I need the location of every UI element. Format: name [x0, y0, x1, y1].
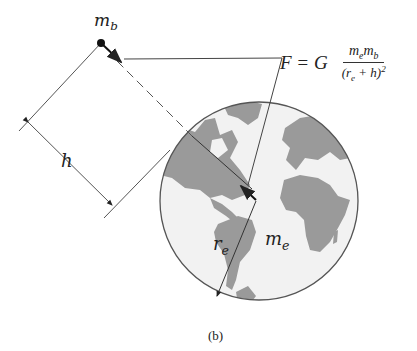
height-dimension	[19, 43, 170, 218]
center-line-dashed	[117, 61, 192, 136]
formula-fraction: memb (re + h)2	[342, 43, 386, 83]
force-arrow-satellite	[101, 43, 121, 62]
formula-numerator: memb	[343, 43, 385, 63]
earth	[160, 100, 358, 304]
formula-lhs: F = G	[280, 52, 328, 74]
satellite-mass-label: mb	[94, 10, 118, 33]
satellite-mass-dot	[97, 39, 105, 47]
height-label: h	[61, 150, 73, 171]
earth-radius-label: re	[213, 233, 229, 258]
earth-mass-label: me	[265, 228, 290, 253]
formula-denominator: (re + h)2	[342, 63, 386, 83]
gravitation-formula: F = G memb (re + h)2	[280, 43, 386, 83]
figure-caption: (b)	[208, 328, 223, 344]
